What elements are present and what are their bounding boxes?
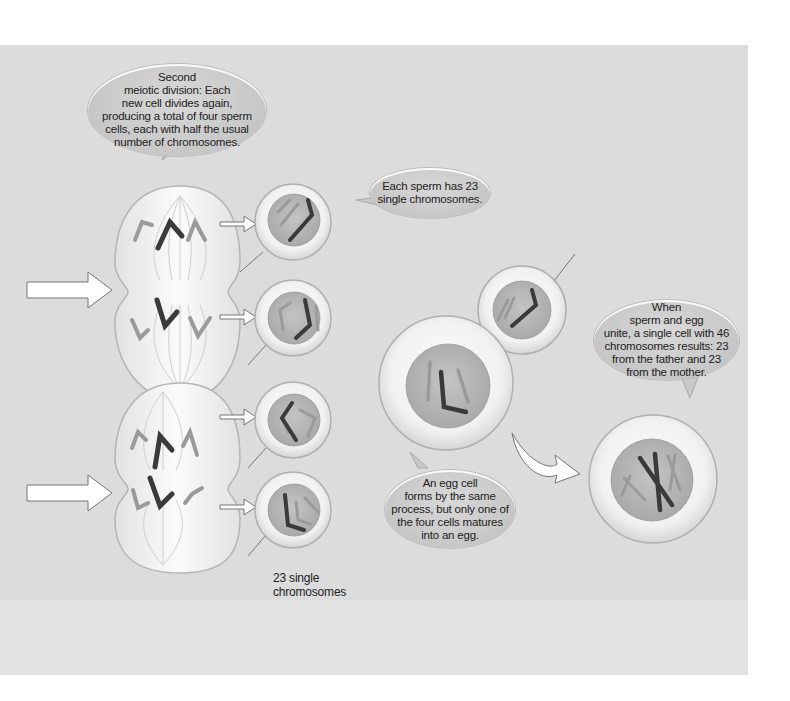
callout-sperm-23: Each sperm has 23 single chromosomes. <box>370 168 490 218</box>
zygote-cell <box>589 415 717 543</box>
callout-egg-cell-text: An egg cell forms by the same process, b… <box>391 477 508 542</box>
input-arrow-top <box>27 272 112 308</box>
egg-cell <box>379 316 513 450</box>
sperm-cell-1 <box>240 184 331 272</box>
callout-sperm-23-text: Each sperm has 23 single chromosomes. <box>378 180 483 206</box>
callout-second-division: Second meiotic division: Each new cell d… <box>88 64 266 156</box>
curved-arrow <box>512 433 580 483</box>
dividing-cell-2 <box>115 383 240 573</box>
input-arrow-bottom <box>27 475 112 511</box>
label-23-single-chromosomes: 23 single chromosomes <box>273 571 346 599</box>
sperm-cell-4 <box>248 472 331 556</box>
dividing-cell-1 <box>115 186 240 400</box>
callout-fertilization: When sperm and egg unite, a single cell … <box>594 300 739 380</box>
callout-second-division-text: Second meiotic division: Each new cell d… <box>102 71 252 149</box>
sperm-cell-2 <box>248 280 331 365</box>
callout-egg-cell: An egg cell forms by the same process, b… <box>385 470 515 548</box>
callout-fertilization-text: When sperm and egg unite, a single cell … <box>604 301 729 379</box>
sperm-cell-3 <box>248 382 331 468</box>
